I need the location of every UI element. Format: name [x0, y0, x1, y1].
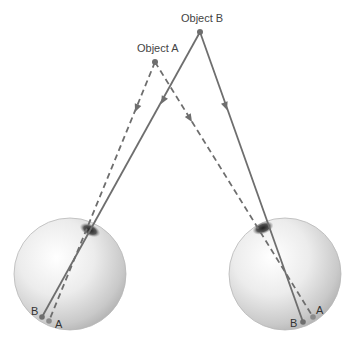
right-retina-label-b: B [290, 318, 297, 329]
binocular-disparity-diagram: Object B Object A B A B A [0, 0, 353, 345]
right-retina-point-b [300, 319, 306, 325]
left-retina-label-b: B [31, 306, 38, 317]
object-a-dot [152, 59, 158, 65]
object-b-label: Object B [181, 13, 223, 24]
arrow-down-icon [221, 101, 230, 111]
right-retina-label-a: A [316, 305, 323, 316]
left-retina-point-b [39, 314, 45, 320]
object-b-dot [197, 29, 203, 35]
left-retina-label-a: A [55, 319, 62, 330]
arrowheads [132, 95, 231, 124]
left-retina-point-a [46, 318, 52, 324]
object-a-label: Object A [137, 43, 179, 54]
right-retina-point-a [310, 314, 316, 320]
arrow-down-icon [132, 103, 142, 113]
arrow-down-icon [185, 113, 195, 123]
